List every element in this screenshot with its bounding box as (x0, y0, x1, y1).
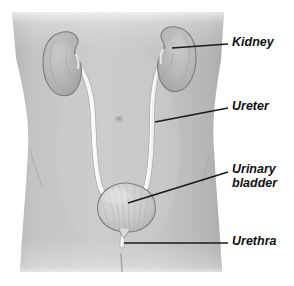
urinary-system-figure: Kidney Ureter Urinarybladder Urethra (0, 0, 294, 286)
midline-cleft (121, 253, 122, 272)
navel-icon (115, 116, 123, 122)
label-kidney: Kidney (232, 36, 274, 50)
label-urinary-bladder-line1: Urinary (232, 162, 276, 176)
kidney-right (158, 27, 196, 92)
label-urinary-bladder: Urinarybladder (232, 163, 277, 190)
label-ureter: Ureter (232, 100, 269, 114)
label-urethra: Urethra (232, 235, 276, 249)
kidney-left (43, 32, 81, 96)
label-urinary-bladder-line2: bladder (232, 176, 277, 190)
